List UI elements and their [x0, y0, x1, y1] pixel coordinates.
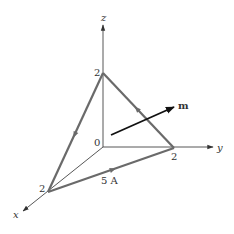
vector-m	[111, 107, 174, 135]
labels: z y x 2 2 2 0 5 A m	[13, 12, 223, 220]
x-axis	[23, 147, 103, 211]
y-axis-label: y	[216, 142, 223, 153]
diagram: z y x 2 2 2 0 5 A m	[0, 0, 234, 234]
z-tick-label: 2	[94, 67, 100, 78]
z-axis-label: z	[100, 12, 107, 23]
current-label: 5 A	[101, 175, 119, 186]
origin-label: 0	[94, 137, 100, 148]
y-tick-label: 2	[171, 151, 177, 162]
x-tick-label: 2	[39, 183, 45, 194]
x-axis-label: x	[13, 209, 19, 220]
vector-m-label: m	[178, 100, 189, 111]
